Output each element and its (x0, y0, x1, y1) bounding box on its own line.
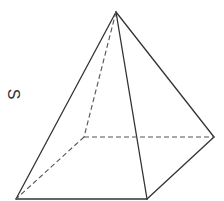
pyramid-diagram (0, 0, 224, 201)
edge-apex-front_right (116, 12, 147, 199)
hidden-edge-back_left-front_left (16, 137, 84, 199)
hidden-edge-apex-back_left (84, 12, 116, 137)
edge-front_right-back_right (147, 137, 214, 199)
hidden-edges (16, 12, 214, 199)
edge-apex-back_right (116, 12, 214, 137)
edge-apex-front_left (16, 12, 116, 199)
pyramid-label: S (5, 89, 21, 100)
visible-edges (16, 12, 214, 199)
